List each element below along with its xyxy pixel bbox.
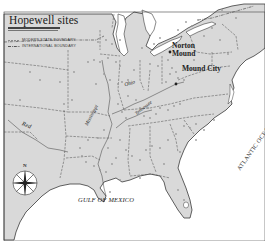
site-marker — [213, 119, 215, 121]
site-marker — [125, 149, 127, 151]
site-marker — [143, 115, 145, 117]
site-marker — [109, 79, 111, 81]
site-marker — [193, 59, 195, 61]
site-marker — [125, 117, 127, 119]
site-marker — [99, 169, 101, 171]
site-marker — [71, 99, 73, 101]
site-marker — [167, 59, 169, 61]
site-marker — [155, 113, 157, 115]
site-marker — [169, 73, 171, 75]
site-marker — [183, 79, 185, 81]
site-marker — [151, 145, 153, 147]
site-marker — [203, 129, 205, 131]
site-marker — [197, 19, 199, 21]
site-marker — [133, 69, 135, 71]
site-marker — [191, 25, 193, 27]
site-marker — [115, 61, 117, 63]
site-marker — [171, 67, 173, 69]
site-marker — [105, 171, 107, 173]
site-marker — [153, 43, 155, 45]
site-marker — [149, 63, 151, 65]
site-marker — [235, 17, 237, 19]
site-marker — [127, 95, 129, 97]
site-marker — [93, 165, 95, 167]
site-marker — [99, 61, 101, 63]
site-marker — [93, 59, 95, 61]
compass-rose-icon — [13, 171, 37, 195]
legend-international-boundary: INTERNATIONAL BOUNDARY — [22, 44, 76, 48]
site-marker — [103, 129, 105, 131]
site-marker — [227, 53, 229, 55]
site-marker — [111, 43, 113, 45]
site-marker — [179, 103, 181, 105]
site-marker — [85, 161, 87, 163]
site-marker — [179, 151, 181, 153]
site-marker — [159, 107, 161, 109]
site-marker — [149, 117, 151, 119]
site-marker — [39, 79, 41, 81]
site-marker — [73, 71, 75, 73]
site-marker — [19, 99, 21, 101]
site-marker — [219, 39, 221, 41]
compass-north-label: N — [23, 163, 27, 168]
site-marker — [121, 111, 123, 113]
site-marker — [139, 177, 141, 179]
site-marker — [87, 139, 89, 141]
site-marker — [185, 21, 187, 23]
site-marker — [175, 133, 177, 135]
site-marker — [167, 109, 169, 111]
site-marker — [163, 163, 165, 165]
norton-mound-marker — [169, 51, 172, 54]
site-marker — [103, 73, 105, 75]
site-marker — [177, 189, 179, 191]
site-marker — [189, 127, 191, 129]
site-marker — [119, 65, 121, 67]
label-gulf-of-mexico: GULF OF MEXICO — [78, 196, 134, 203]
site-marker — [59, 81, 61, 83]
site-marker — [183, 125, 185, 127]
site-marker — [119, 39, 121, 41]
site-marker — [97, 41, 99, 43]
site-marker — [203, 35, 205, 37]
legend-state-boundary: MODERN STATE BOUNDARY — [22, 38, 76, 42]
site-marker — [79, 147, 81, 149]
site-marker — [211, 27, 213, 29]
site-marker — [177, 29, 179, 31]
site-marker — [177, 77, 179, 79]
site-marker — [195, 139, 197, 141]
label-mound-city: Mound City — [182, 64, 221, 73]
label-mound: Mound — [172, 49, 195, 58]
site-marker — [135, 99, 137, 101]
site-marker — [131, 155, 133, 157]
site-marker — [111, 163, 113, 165]
site-marker — [183, 199, 185, 201]
site-marker — [95, 83, 97, 85]
site-marker — [117, 103, 119, 105]
site-marker — [165, 81, 167, 83]
site-marker — [159, 37, 161, 39]
site-marker — [175, 71, 177, 73]
site-marker — [159, 147, 161, 149]
site-marker — [107, 147, 109, 149]
site-marker — [167, 139, 169, 141]
mound-city-marker — [175, 83, 178, 86]
site-marker — [29, 71, 31, 73]
site-marker — [141, 47, 143, 49]
site-marker — [157, 65, 159, 67]
hopewell-sites-map — [0, 0, 265, 241]
site-marker — [115, 157, 117, 159]
site-marker — [81, 155, 83, 157]
site-marker — [63, 103, 65, 105]
site-marker — [109, 191, 111, 193]
site-marker — [87, 61, 89, 63]
site-marker — [139, 159, 141, 161]
site-marker — [173, 105, 175, 107]
site-marker — [97, 137, 99, 139]
lake-okeechobee — [183, 202, 188, 208]
site-marker — [119, 179, 121, 181]
site-marker — [117, 83, 119, 85]
site-marker — [107, 57, 109, 59]
site-marker — [145, 149, 147, 151]
site-marker — [119, 139, 121, 141]
site-marker — [105, 39, 107, 41]
